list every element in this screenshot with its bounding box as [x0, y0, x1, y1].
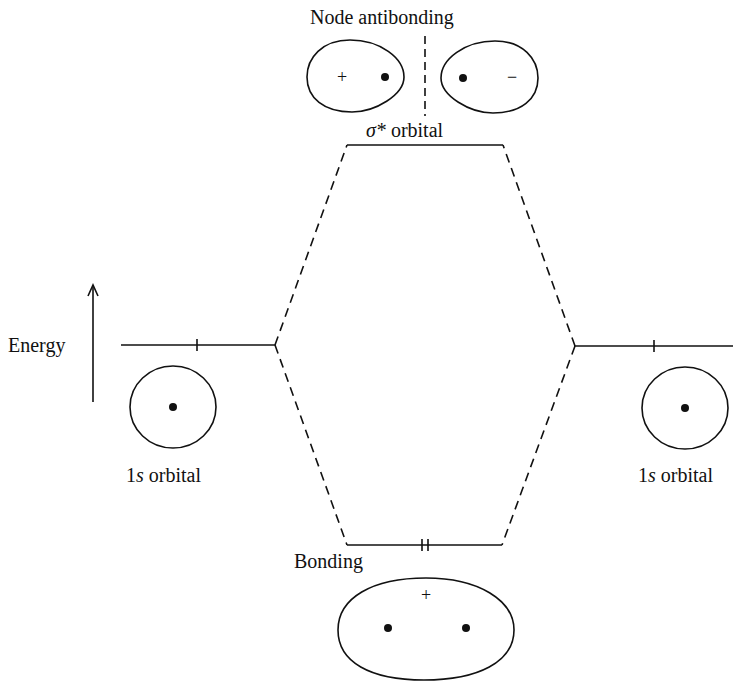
antibonding-lobe-right: − — [441, 41, 538, 113]
label-prefix: 1 — [638, 464, 648, 486]
minus-sign: − — [507, 67, 517, 87]
nucleus-dot — [381, 73, 389, 81]
energy-axis-label: Energy — [8, 334, 65, 357]
bonding-orbital-shape: + — [338, 578, 514, 680]
correlation-line-left-up — [275, 145, 347, 345]
node-antibonding-label: Node antibonding — [310, 6, 454, 29]
antibonding-lobe-left: + — [307, 40, 404, 112]
left-1s-label: 1s orbital — [126, 464, 201, 486]
sigma-star-symbol: σ* — [366, 119, 386, 141]
label-prefix: 1 — [126, 464, 136, 486]
left-1s-orbital-shape — [130, 366, 216, 448]
mo-diagram: Node antibonding + − σ* orbital Energy — [0, 0, 749, 692]
nucleus-dot — [384, 624, 392, 632]
sigma-star-label: σ* orbital — [366, 119, 444, 141]
label-suffix: orbital — [656, 464, 714, 486]
right-1s-orbital-shape — [642, 367, 728, 449]
correlation-line-left-down — [275, 345, 347, 545]
nucleus-dot — [462, 624, 470, 632]
bonding-label: Bonding — [294, 550, 363, 573]
energy-arrow-icon — [88, 285, 98, 402]
nucleus-dot — [169, 403, 177, 411]
plus-sign: + — [421, 585, 431, 605]
nucleus-dot — [459, 74, 467, 82]
label-suffix: orbital — [144, 464, 202, 486]
plus-sign: + — [337, 67, 347, 87]
right-1s-label: 1s orbital — [638, 464, 713, 486]
correlation-line-right-up — [503, 145, 575, 346]
label-italic: s — [136, 464, 144, 486]
nucleus-dot — [681, 404, 689, 412]
sigma-star-suffix: orbital — [386, 119, 444, 141]
correlation-line-right-down — [502, 346, 575, 545]
label-italic: s — [648, 464, 656, 486]
